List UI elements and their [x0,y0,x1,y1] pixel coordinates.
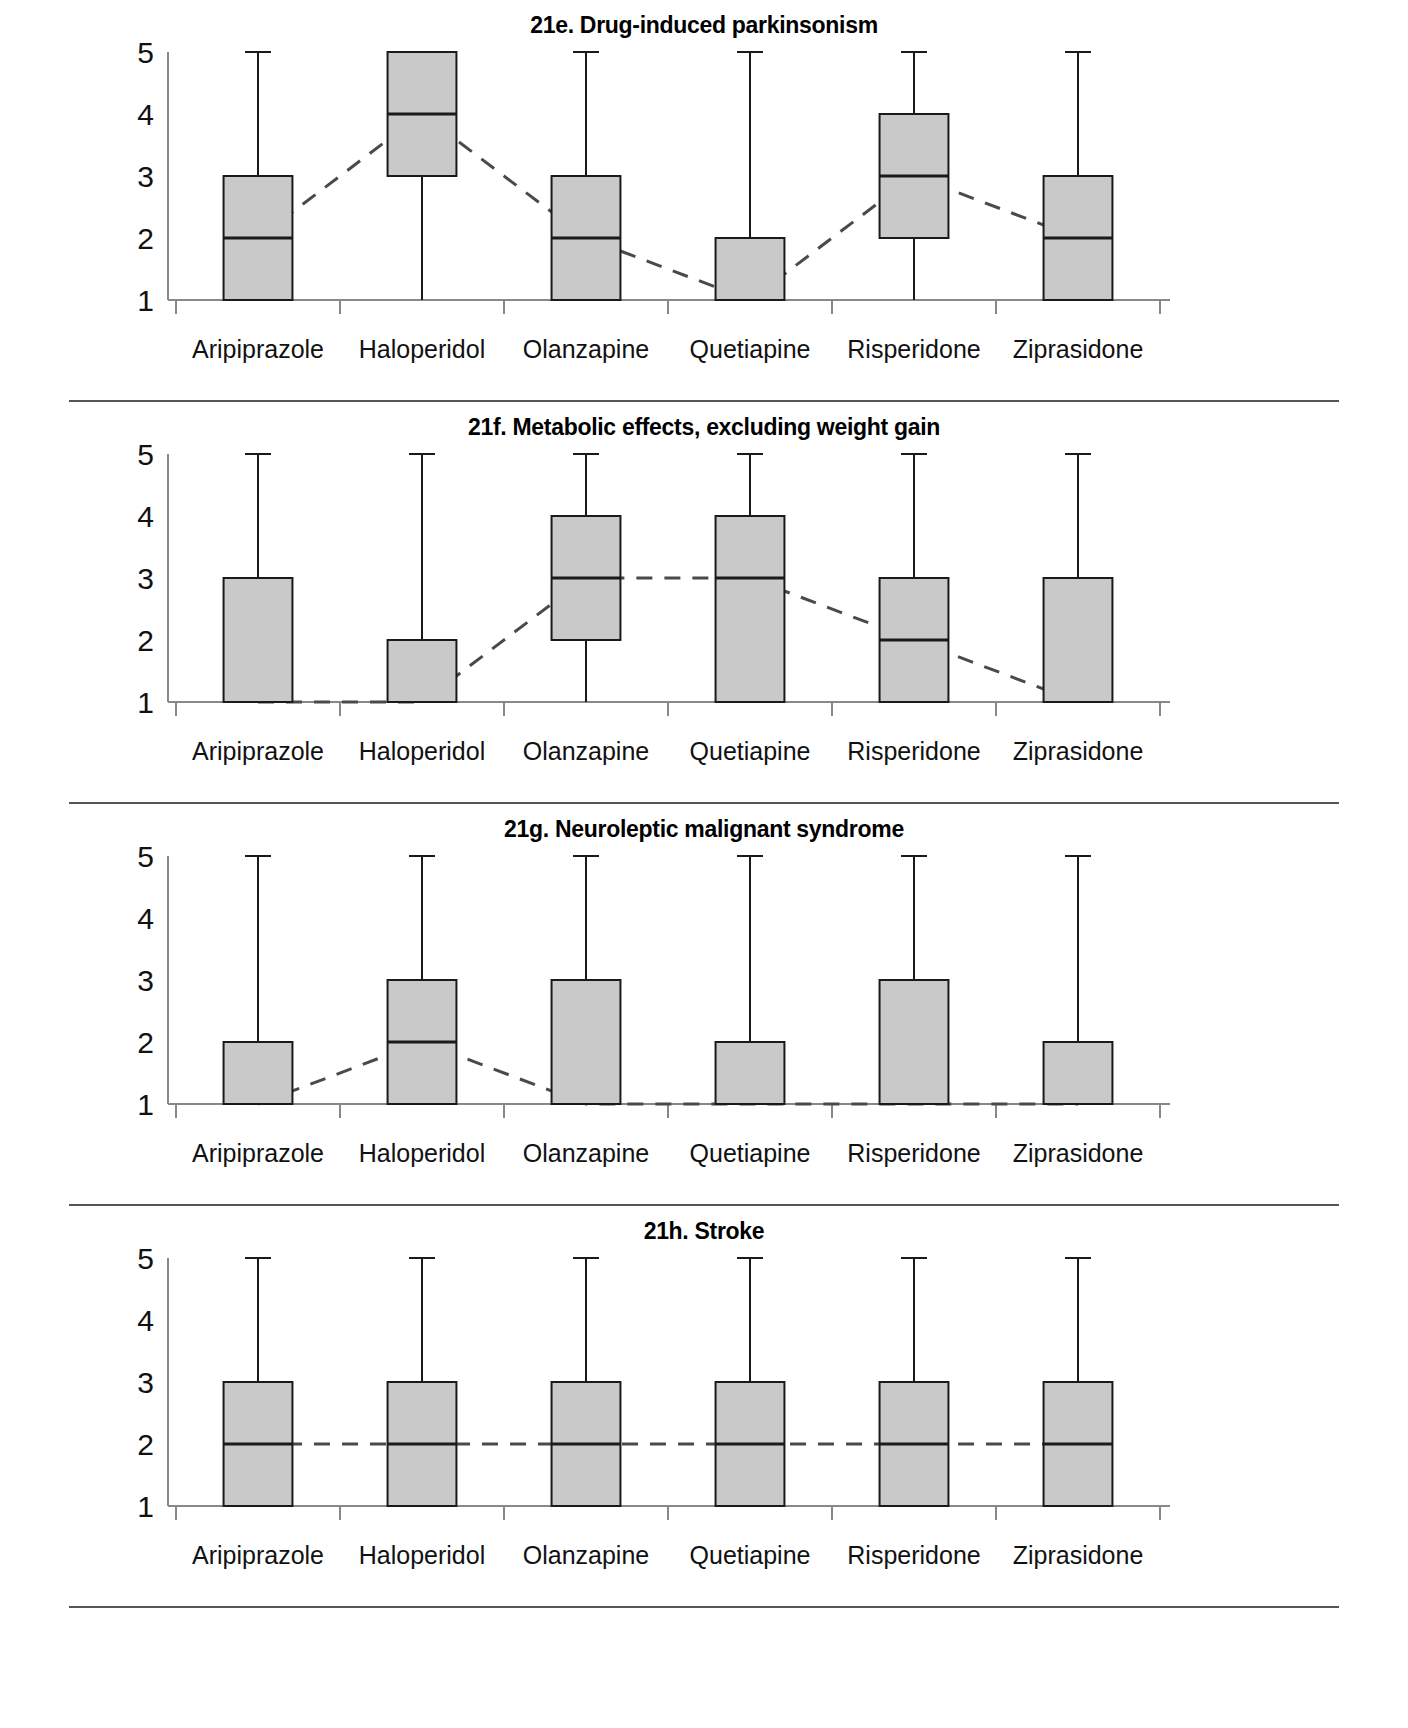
y-axis-tick-label: 2 [137,1428,154,1461]
y-axis-tick-label: 1 [137,1088,154,1121]
box-ziprasidone [1044,578,1113,702]
y-axis-tick-label: 3 [137,160,154,193]
y-axis-tick-label: 5 [137,36,154,69]
x-axis-category-label: Haloperidol [359,335,485,363]
y-axis-tick-label: 4 [137,500,154,533]
y-axis-tick-label: 5 [137,840,154,873]
boxplot-figure: 21e. Drug-induced parkinsonism 12345Arip… [0,0,1408,1728]
boxplot-svg-21h: 12345AripiprazoleHaloperidolOlanzapineQu… [0,1206,1408,1606]
x-axis-category-label: Quetiapine [690,335,811,363]
x-axis-category-label: Haloperidol [359,1541,485,1569]
y-axis-tick-label: 1 [137,1490,154,1523]
y-axis-tick-label: 4 [137,902,154,935]
median-connector-line [258,1042,1078,1104]
x-axis-category-label: Quetiapine [690,1139,811,1167]
x-axis-category-label: Aripiprazole [192,335,324,363]
box-aripiprazole [224,1042,293,1104]
panel-separator-4 [69,1606,1339,1608]
x-axis-category-label: Olanzapine [523,1139,649,1167]
box-risperidone [880,980,949,1104]
y-axis-tick-label: 4 [137,98,154,131]
panel-21e: 21e. Drug-induced parkinsonism 12345Arip… [0,0,1408,400]
y-axis-tick-label: 2 [137,222,154,255]
y-axis-tick-label: 3 [137,964,154,997]
box-ziprasidone [1044,1042,1113,1104]
x-axis-category-label: Aripiprazole [192,737,324,765]
x-axis-category-label: Aripiprazole [192,1541,324,1569]
boxplot-svg-21f: 12345AripiprazoleHaloperidolOlanzapineQu… [0,402,1408,802]
x-axis-category-label: Quetiapine [690,1541,811,1569]
x-axis-category-label: Ziprasidone [1013,335,1144,363]
y-axis-tick-label: 2 [137,1026,154,1059]
x-axis-category-label: Quetiapine [690,737,811,765]
panel-21f: 21f. Metabolic effects, excluding weight… [0,402,1408,802]
y-axis-tick-label: 4 [137,1304,154,1337]
panel-21g: 21g. Neuroleptic malignant syndrome 1234… [0,804,1408,1204]
x-axis-category-label: Risperidone [847,335,980,363]
boxplot-svg-21e: 12345AripiprazoleHaloperidolOlanzapineQu… [0,0,1408,400]
x-axis-category-label: Aripiprazole [192,1139,324,1167]
box-quetiapine [716,1042,785,1104]
box-olanzapine [552,980,621,1104]
x-axis-category-label: Olanzapine [523,737,649,765]
plot-area-21e: 12345AripiprazoleHaloperidolOlanzapineQu… [0,0,1408,400]
plot-area-21g: 12345AripiprazoleHaloperidolOlanzapineQu… [0,804,1408,1204]
y-axis-tick-label: 5 [137,438,154,471]
x-axis-category-label: Olanzapine [523,1541,649,1569]
panel-21h: 21h. Stroke 12345AripiprazoleHaloperidol… [0,1206,1408,1606]
y-axis-tick-label: 3 [137,562,154,595]
box-aripiprazole [224,578,293,702]
x-axis-category-label: Ziprasidone [1013,737,1144,765]
x-axis-category-label: Risperidone [847,737,980,765]
x-axis-category-label: Risperidone [847,1139,980,1167]
median-connector-line [258,114,1078,300]
x-axis-category-label: Risperidone [847,1541,980,1569]
plot-area-21h: 12345AripiprazoleHaloperidolOlanzapineQu… [0,1206,1408,1606]
y-axis-tick-label: 1 [137,686,154,719]
x-axis-category-label: Ziprasidone [1013,1139,1144,1167]
x-axis-category-label: Haloperidol [359,1139,485,1167]
plot-area-21f: 12345AripiprazoleHaloperidolOlanzapineQu… [0,402,1408,802]
y-axis-tick-label: 5 [137,1242,154,1275]
box-haloperidol [388,640,457,702]
x-axis-category-label: Ziprasidone [1013,1541,1144,1569]
median-connector-line [258,578,1078,702]
boxplot-svg-21g: 12345AripiprazoleHaloperidolOlanzapineQu… [0,804,1408,1204]
x-axis-category-label: Olanzapine [523,335,649,363]
y-axis-tick-label: 1 [137,284,154,317]
box-quetiapine [716,516,785,702]
y-axis-tick-label: 2 [137,624,154,657]
x-axis-category-label: Haloperidol [359,737,485,765]
y-axis-tick-label: 3 [137,1366,154,1399]
box-quetiapine [716,238,785,300]
